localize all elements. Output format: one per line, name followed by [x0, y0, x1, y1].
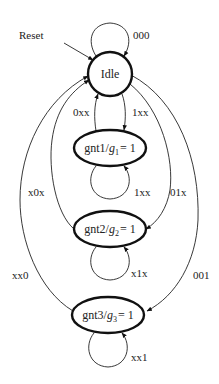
transition-label-1xx-loop: 1xx: [134, 186, 151, 198]
transition-label-0xx: 0xx: [73, 106, 90, 118]
reset-arrow: Reset: [19, 29, 93, 60]
transition-label-1xx: 1xx: [132, 106, 149, 118]
state-idle-label: Idle: [101, 67, 120, 81]
state-gnt3-name: gnt3: [82, 308, 103, 322]
transition-idle-idle: 000: [91, 23, 150, 56]
state-gnt3: gnt3/g3= 1: [72, 297, 144, 333]
transition-label-01x: 01x: [170, 186, 187, 198]
fsm-diagram: Reset 000 1xx 0xx 1xx 01x x0x x1x 001: [0, 0, 219, 384]
transition-gnt3-gnt3: xx1: [89, 333, 148, 367]
state-gnt1: gnt1/g1= 1: [74, 130, 146, 166]
transition-gnt1-gnt1: 1xx: [91, 166, 151, 199]
transition-gnt1-idle: 0xx: [73, 94, 98, 131]
transition-label-000: 000: [133, 29, 150, 41]
svg-text:gnt2/g2= 1: gnt2/g2= 1: [84, 222, 135, 238]
transition-label-x0x: x0x: [28, 186, 45, 198]
reset-label: Reset: [19, 29, 43, 41]
svg-text:gnt1/g1= 1: gnt1/g1= 1: [84, 141, 135, 157]
svg-text:gnt3/g3= 1: gnt3/g3= 1: [82, 308, 133, 324]
transition-label-x1x: x1x: [131, 267, 148, 279]
state-gnt2-name: gnt2: [84, 222, 105, 236]
transition-label-001: 001: [193, 269, 210, 281]
transition-gnt2-gnt2: x1x: [91, 247, 148, 280]
state-gnt2: gnt2/g2= 1: [74, 211, 146, 247]
state-gnt1-name: gnt1: [84, 141, 105, 155]
transition-label-xx1: xx1: [131, 351, 148, 363]
transition-label-xx0: xx0: [12, 269, 29, 281]
state-idle: Idle: [88, 52, 132, 96]
